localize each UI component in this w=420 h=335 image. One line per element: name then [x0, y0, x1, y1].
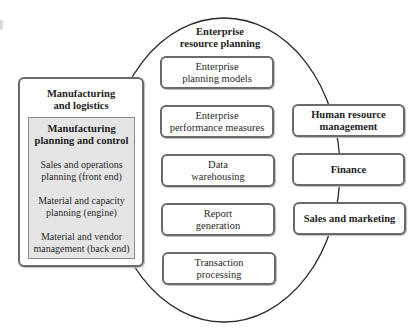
center-module-data-warehousing: Datawarehousing [161, 154, 275, 187]
right-module-finance: Finance [292, 153, 405, 186]
mpc-item-front-end: Sales and operations planning (front end… [29, 159, 134, 183]
center-module-report-generation: Reportgeneration [161, 203, 275, 236]
mpc-box: Manufacturing planning and control Sales… [28, 117, 135, 259]
mpc-item-engine: Material and capacity planning (engine) [29, 195, 134, 219]
center-module-planning-models: Enterpriseplanning models [160, 56, 274, 89]
center-module-transaction-processing: Transactionprocessing [162, 252, 276, 285]
manufacturing-logistics-title: Manufacturing and logistics [20, 88, 142, 112]
right-module-sales-marketing: Sales and marketing [293, 202, 406, 235]
right-module-human-resource: Human resourcemanagement [292, 104, 405, 137]
manufacturing-logistics-box: Manufacturing and logistics Manufacturin… [18, 77, 144, 267]
center-module-performance-measures: Enterpriseperformance measures [160, 105, 274, 138]
ellipse-title: Enterprise resource planning [170, 26, 270, 50]
mpc-item-back-end: Material and vendor management (back end… [29, 231, 134, 255]
mpc-title: Manufacturing planning and control [29, 123, 134, 147]
